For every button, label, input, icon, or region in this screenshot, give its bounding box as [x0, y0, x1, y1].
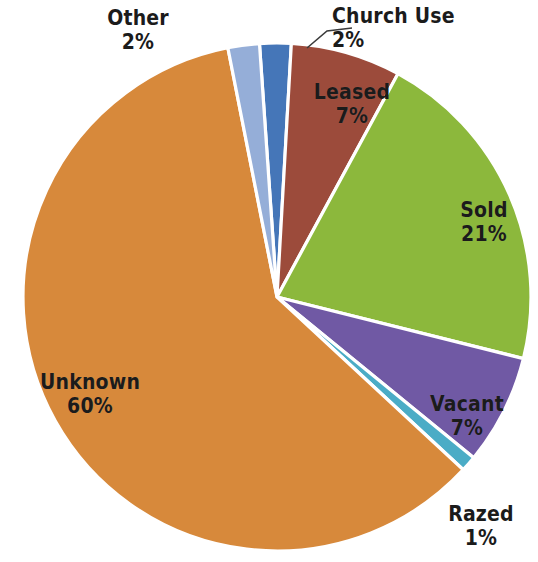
- pie-slices-group: [23, 43, 531, 551]
- slice-label-other: Other 2%: [68, 6, 208, 55]
- slice-label-other-value: 2%: [68, 30, 208, 54]
- slice-label-unknown: Unknown 60%: [18, 370, 162, 419]
- slice-label-vacant-value: 7%: [412, 416, 522, 440]
- slice-label-church-use-name: Church Use: [332, 4, 500, 28]
- slice-label-leased-name: Leased: [296, 80, 408, 104]
- slice-label-unknown-value: 60%: [18, 394, 162, 418]
- slice-label-other-name: Other: [68, 6, 208, 30]
- slice-label-sold: Sold 21%: [436, 198, 532, 247]
- slice-label-razed-name: Razed: [430, 502, 532, 526]
- slice-label-razed: Razed 1%: [430, 502, 532, 551]
- slice-label-razed-value: 1%: [430, 526, 532, 550]
- slice-label-unknown-name: Unknown: [18, 370, 162, 394]
- slice-label-church-use-value: 2%: [332, 28, 500, 52]
- slice-label-leased-value: 7%: [296, 104, 408, 128]
- slice-label-vacant: Vacant 7%: [412, 392, 522, 441]
- slice-label-sold-value: 21%: [436, 222, 532, 246]
- slice-label-leased: Leased 7%: [296, 80, 408, 129]
- slice-label-church-use: Church Use 2%: [332, 4, 500, 53]
- slice-label-vacant-name: Vacant: [412, 392, 522, 416]
- pie-chart: Other 2% Church Use 2% Leased 7% Sold 21…: [0, 0, 538, 562]
- slice-label-sold-name: Sold: [436, 198, 532, 222]
- pie-chart-canvas: [0, 0, 538, 562]
